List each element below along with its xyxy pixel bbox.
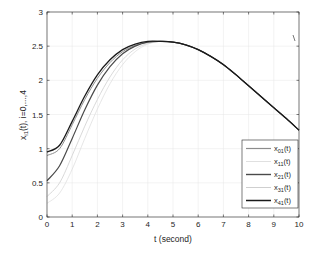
x-axis-label: t (second) [154, 234, 192, 244]
x-tick-label: 3 [120, 220, 125, 229]
y-tick-labels: 00.511.522.53 [32, 8, 44, 222]
y-tick-label: 2.5 [32, 42, 44, 51]
x-tick-label: 2 [95, 220, 100, 229]
x-tick-label: 8 [246, 220, 251, 229]
stray-mark [293, 35, 295, 41]
x-tick-label: 9 [272, 220, 277, 229]
legend-label: x11(t) [274, 157, 291, 167]
line-chart: 012345678910 00.511.522.53 t (second) xi… [0, 0, 318, 253]
x-tick-labels: 012345678910 [45, 220, 304, 229]
x-tick-label: 10 [295, 220, 304, 229]
legend: x01(t)x11(t)x21(t)x31(t)x41(t) [242, 140, 298, 208]
x-tick-label: 1 [70, 220, 75, 229]
y-tick-label: 3 [39, 8, 44, 17]
x-tick-label: 6 [196, 220, 201, 229]
y-tick-label: 0 [39, 213, 44, 222]
x-tick-label: 7 [221, 220, 226, 229]
y-axis-label: xi1(t), i=0,...,4 [18, 90, 29, 140]
x-tick-label: 0 [45, 220, 50, 229]
x-tick-label: 4 [146, 220, 151, 229]
y-tick-label: 1.5 [32, 111, 44, 120]
y-tick-label: 1 [39, 145, 44, 154]
y-tick-label: 2 [39, 76, 44, 85]
y-tick-label: 0.5 [32, 179, 44, 188]
x-tick-label: 5 [171, 220, 176, 229]
